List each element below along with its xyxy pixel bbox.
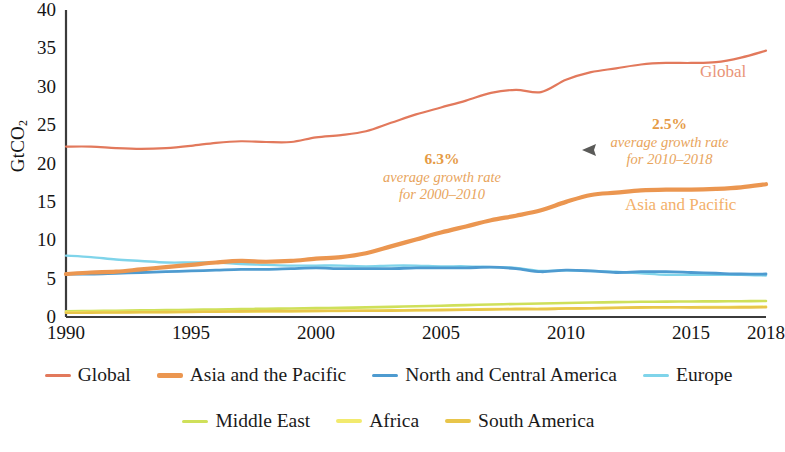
- legend-item-africa[interactable]: Africa: [336, 410, 419, 432]
- inline-label-asia-and-pacific: Asia and Pacific: [625, 195, 736, 215]
- legend-swatch: [45, 374, 71, 377]
- annotation-growth-2000-2010: 6.3% average growth rate for 2000–2010: [322, 150, 562, 204]
- legend-item-middle-east[interactable]: Middle East: [182, 410, 310, 432]
- legend-swatch: [445, 419, 471, 423]
- annotation-arrow-icon: [582, 143, 604, 157]
- legend-row-2: Middle EastAfricaSouth America: [0, 410, 777, 432]
- annotation-growth-2010-2018: 2.5% average growth rate for 2010–2018: [562, 115, 777, 169]
- legend-item-south-america[interactable]: South America: [445, 410, 594, 432]
- annotation-1-percent: 2.5%: [562, 115, 777, 133]
- legend-row-1: GlobalAsia and the PacificNorth and Cent…: [0, 364, 777, 386]
- legend-item-asia-and-the-pacific[interactable]: Asia and the Pacific: [157, 364, 347, 386]
- legend-item-north-and-central-america[interactable]: North and Central America: [372, 364, 617, 386]
- legend-swatch: [157, 373, 183, 378]
- annotation-1-line1: average growth rate: [611, 134, 729, 150]
- legend-label: Asia and the Pacific: [190, 364, 347, 386]
- annotation-1-line2: for 2010–2018: [627, 151, 713, 167]
- inline-label-global: Global: [700, 62, 746, 82]
- legend-label: North and Central America: [405, 364, 617, 386]
- legend-swatch: [182, 420, 208, 423]
- legend-item-europe[interactable]: Europe: [643, 364, 732, 386]
- legend-swatch: [372, 374, 398, 377]
- legend-swatch: [643, 374, 669, 377]
- legend-label: Africa: [369, 410, 419, 432]
- legend-swatch: [336, 419, 362, 423]
- annotation-0-line1: average growth rate: [383, 169, 501, 185]
- annotation-0-line2: for 2000–2010: [399, 186, 485, 202]
- legend-item-global[interactable]: Global: [45, 364, 131, 386]
- legend-label: South America: [478, 410, 594, 432]
- annotation-0-percent: 6.3%: [322, 150, 562, 168]
- legend-label: Global: [78, 364, 131, 386]
- legend-label: Europe: [676, 364, 732, 386]
- legend-label: Middle East: [215, 410, 310, 432]
